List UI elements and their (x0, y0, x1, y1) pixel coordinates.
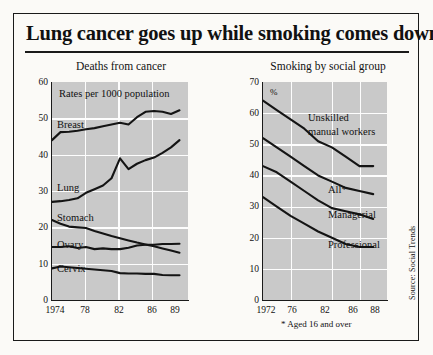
right-chart-title: Smoking by social group (248, 60, 408, 72)
title-divider (25, 51, 409, 53)
right-ytick-40: 40 (233, 170, 259, 180)
right-ytick-60: 60 (233, 108, 259, 118)
right-ytick-50: 50 (233, 139, 259, 149)
figure-title: Lung cancer goes up while smoking comes … (26, 22, 408, 45)
left-ytick-0: 0 (22, 295, 48, 305)
series-label-stomach: Stomach (57, 212, 94, 224)
left-ytick-60: 60 (22, 77, 48, 87)
right-y-axis (262, 82, 263, 301)
series-label-ovary: Ovary (57, 239, 83, 251)
series-label-cervix: Cervix (57, 263, 86, 275)
series-label-managerial: Managerial (328, 209, 376, 221)
right-ytick-70: 70 (233, 77, 259, 87)
infographic-figure: Lung cancer goes up while smoking comes … (0, 0, 433, 355)
left-chart-title: Deaths from cancer (46, 60, 196, 72)
figure-source: Source: Social Trends (408, 226, 417, 300)
left-xtick-1974: 1974 (38, 305, 72, 315)
series-label-all: All* (328, 184, 347, 196)
left-ytick-30: 30 (22, 186, 48, 196)
series-label-lung: Lung (57, 182, 79, 194)
series-label-unskilled-line2: manual workers (308, 126, 375, 138)
right-ytick-0: 0 (233, 295, 259, 305)
left-x-axis (51, 300, 189, 301)
left-ytick-20: 20 (22, 222, 48, 232)
right-xtick-88: 88 (358, 305, 392, 315)
left-ytick-10: 10 (22, 259, 48, 269)
right-xtick-76: 76 (275, 305, 309, 315)
figure-footnote: * Aged 16 and over (281, 319, 351, 329)
series-line-all (263, 138, 373, 194)
left-y-axis (51, 82, 52, 301)
right-x-axis (262, 300, 388, 301)
left-xtick-89: 89 (158, 305, 192, 315)
series-label-breast: Breast (57, 119, 84, 131)
left-xtick-78: 78 (68, 305, 102, 315)
left-ytick-40: 40 (22, 150, 48, 160)
left-chart-annotation: Rates per 1000 population (59, 88, 170, 100)
series-label-unskilled-line1: Unskilled (308, 112, 349, 124)
right-chart-annotation: % (270, 87, 278, 97)
left-ytick-50: 50 (22, 113, 48, 123)
right-ytick-10: 10 (233, 264, 259, 274)
right-ytick-30: 30 (233, 201, 259, 211)
left-xtick-82: 82 (102, 305, 136, 315)
series-label-professional: Professional (328, 239, 380, 251)
right-ytick-20: 20 (233, 233, 259, 243)
